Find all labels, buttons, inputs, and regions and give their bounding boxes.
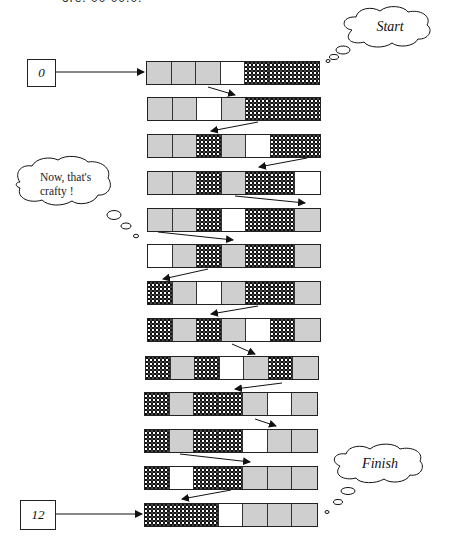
cell-dotted bbox=[197, 135, 222, 157]
cell-grey bbox=[295, 245, 320, 267]
state-row-6 bbox=[147, 281, 321, 305]
cell-dotted bbox=[219, 430, 244, 452]
cell-empty bbox=[220, 357, 245, 379]
cell-dotted bbox=[197, 209, 222, 231]
cell-grey bbox=[196, 62, 221, 84]
cell-dotted bbox=[197, 319, 222, 341]
cell-grey bbox=[148, 209, 173, 231]
cell-grey bbox=[222, 172, 247, 194]
cell-dotted bbox=[246, 172, 271, 194]
cell-grey bbox=[222, 135, 247, 157]
state-row-12 bbox=[144, 503, 318, 527]
cell-grey bbox=[292, 467, 317, 489]
cell-dotted bbox=[271, 209, 296, 231]
cell-grey bbox=[147, 62, 172, 84]
state-row-8 bbox=[145, 356, 319, 380]
cell-dotted bbox=[246, 282, 271, 304]
cell-dotted bbox=[194, 393, 219, 415]
state-row-5 bbox=[147, 244, 321, 268]
state-row-0 bbox=[146, 61, 320, 85]
cell-grey bbox=[295, 319, 320, 341]
cell-grey bbox=[268, 467, 293, 489]
cell-grey bbox=[292, 504, 317, 526]
cell-grey bbox=[222, 282, 247, 304]
state-row-3 bbox=[147, 171, 321, 195]
state-row-10 bbox=[144, 429, 318, 453]
cell-dotted bbox=[197, 245, 222, 267]
cell-dotted bbox=[145, 504, 170, 526]
cell-grey bbox=[295, 282, 320, 304]
cell-dotted bbox=[170, 504, 195, 526]
cell-dotted bbox=[148, 282, 173, 304]
cell-dotted bbox=[295, 135, 320, 157]
state-row-11 bbox=[144, 466, 318, 490]
cell-grey bbox=[173, 245, 198, 267]
cell-grey bbox=[170, 393, 195, 415]
cell-grey bbox=[173, 209, 198, 231]
state-row-1 bbox=[147, 97, 321, 121]
cell-dotted bbox=[194, 430, 219, 452]
cell-dotted bbox=[245, 62, 270, 84]
note-cloud-line2: crafty ! bbox=[40, 184, 74, 198]
start-counter-box: 0 bbox=[27, 59, 56, 87]
cell-dotted bbox=[146, 357, 171, 379]
cell-empty bbox=[197, 282, 222, 304]
cell-grey bbox=[292, 393, 317, 415]
cell-dotted bbox=[219, 393, 244, 415]
cell-dotted bbox=[145, 393, 170, 415]
cell-dotted bbox=[270, 62, 295, 84]
cell-empty bbox=[268, 393, 293, 415]
start-cloud-label: Start bbox=[360, 19, 420, 35]
cell-grey bbox=[172, 62, 197, 84]
cell-dotted bbox=[271, 98, 296, 120]
end-counter-box: 12 bbox=[20, 500, 56, 530]
cell-grey bbox=[243, 504, 268, 526]
cell-empty bbox=[295, 172, 320, 194]
cell-dotted bbox=[271, 172, 296, 194]
cell-dotted bbox=[194, 467, 219, 489]
cell-grey bbox=[170, 430, 195, 452]
cell-dotted bbox=[197, 172, 222, 194]
cell-dotted bbox=[145, 467, 170, 489]
end-counter-label: 12 bbox=[32, 507, 45, 523]
cell-grey bbox=[171, 357, 196, 379]
cell-grey bbox=[243, 393, 268, 415]
cell-grey bbox=[173, 282, 198, 304]
cell-empty bbox=[246, 135, 271, 157]
finish-cloud-label: Finish bbox=[348, 456, 412, 472]
cell-dotted bbox=[194, 504, 219, 526]
cell-empty bbox=[197, 98, 222, 120]
cell-empty bbox=[246, 319, 271, 341]
cell-empty bbox=[219, 504, 244, 526]
cell-grey bbox=[293, 357, 318, 379]
state-row-7 bbox=[147, 318, 321, 342]
cell-empty bbox=[243, 430, 268, 452]
cell-dotted bbox=[269, 357, 294, 379]
cell-grey bbox=[222, 319, 247, 341]
cell-dotted bbox=[246, 98, 271, 120]
cell-dotted bbox=[295, 98, 320, 120]
cell-dotted bbox=[271, 282, 296, 304]
cell-grey bbox=[148, 172, 173, 194]
cell-grey bbox=[222, 98, 247, 120]
cell-grey bbox=[148, 98, 173, 120]
cell-grey bbox=[148, 135, 173, 157]
puzzle-diagram: ore. 00 00.0. bbox=[0, 0, 450, 544]
cell-dotted bbox=[148, 319, 173, 341]
cell-dotted bbox=[195, 357, 220, 379]
cell-grey bbox=[222, 245, 247, 267]
cell-empty bbox=[222, 209, 247, 231]
cell-grey bbox=[292, 430, 317, 452]
finish-cloud-icon bbox=[325, 444, 422, 513]
cell-dotted bbox=[219, 467, 244, 489]
cell-grey bbox=[295, 209, 320, 231]
cell-grey bbox=[268, 504, 293, 526]
state-row-4 bbox=[147, 208, 321, 232]
cell-grey bbox=[173, 135, 198, 157]
cell-dotted bbox=[246, 209, 271, 231]
cell-dotted bbox=[271, 245, 296, 267]
note-cloud-line1: Now, that's bbox=[40, 170, 91, 184]
cell-grey bbox=[243, 467, 268, 489]
cell-dotted bbox=[246, 245, 271, 267]
cell-empty bbox=[170, 467, 195, 489]
